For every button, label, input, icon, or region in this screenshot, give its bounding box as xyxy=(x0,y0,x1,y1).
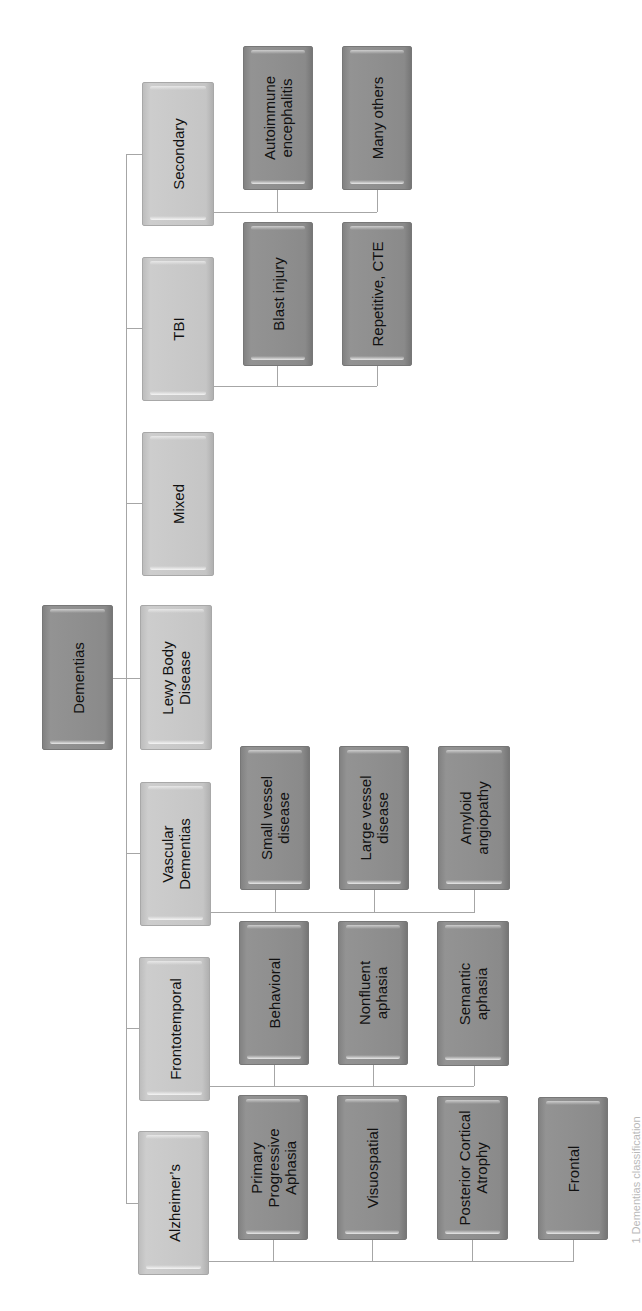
drop-tbi-1 xyxy=(377,365,378,386)
stub-lewy xyxy=(126,678,140,679)
category-label: Lewy Body Disease xyxy=(159,641,193,714)
subtype-primary-progressive-aphasia: Primary Progressive Aphasia xyxy=(238,1095,308,1240)
subtype-frontal: Frontal xyxy=(538,1097,608,1240)
drop-secondary-0 xyxy=(277,190,278,212)
subtype-label: Posterior Cortical Atrophy xyxy=(456,1110,490,1225)
category-vascular-dementias: Vascular Dementias xyxy=(140,782,211,926)
subtype-many-others: Many others xyxy=(342,46,412,190)
drop-alz-0 xyxy=(273,1240,274,1261)
subtype-semantic-aphasia: Semantic aphasia xyxy=(437,921,509,1066)
subtype-label: Behavioral xyxy=(266,958,283,1029)
drop-ftd-2 xyxy=(474,1065,475,1086)
root-node-dementias: Dementias xyxy=(42,605,113,750)
category-tbi: TBI xyxy=(142,257,214,401)
subtype-label: Autoimmune encephalitis xyxy=(261,76,295,160)
category-label: Mixed xyxy=(170,484,187,524)
category-secondary: Secondary xyxy=(142,82,214,226)
figure-caption-text: 1 Dementias classification xyxy=(630,1116,642,1243)
subtype-label: Repetitive, CTE xyxy=(369,241,386,346)
drop-ftd-1 xyxy=(373,1065,374,1086)
subtype-label: Many others xyxy=(369,77,386,160)
drop-vascular-1 xyxy=(374,890,375,912)
bus-secondary xyxy=(214,212,377,213)
subtype-large-vessel-disease: Large vessel disease xyxy=(339,746,409,890)
subtype-autoimmune-encephalitis: Autoimmune encephalitis xyxy=(243,46,313,190)
subtype-label: Semantic aphasia xyxy=(456,962,490,1025)
root-connector xyxy=(112,678,127,679)
category-alzheimers: Alzheimer’s xyxy=(138,1131,209,1275)
category-label: Vascular Dementias xyxy=(159,818,193,890)
category-frontotemporal: Frontotemporal xyxy=(139,957,210,1101)
subtype-label: Primary Progressive Aphasia xyxy=(248,1128,299,1207)
bus-frontotemporal xyxy=(210,1086,474,1087)
stub-mixed xyxy=(126,503,142,504)
subtype-label: Visuospatial xyxy=(364,1127,381,1208)
drop-alz-2 xyxy=(472,1240,473,1261)
subtype-blast-injury: Blast injury xyxy=(243,222,313,366)
category-mixed: Mixed xyxy=(142,432,214,576)
subtype-label: Amyloid angiopathy xyxy=(457,781,491,854)
category-label: Alzheimer’s xyxy=(165,1164,182,1242)
subtype-label: Large vessel disease xyxy=(357,775,391,860)
subtype-posterior-cortical-atrophy: Posterior Cortical Atrophy xyxy=(437,1096,508,1240)
subtype-label: Frontal xyxy=(565,1145,582,1192)
stub-frontotemporal xyxy=(126,1028,139,1029)
subtype-label: Blast injury xyxy=(270,257,287,330)
category-lewy-body-disease: Lewy Body Disease xyxy=(140,605,212,750)
drop-ftd-0 xyxy=(274,1065,275,1086)
category-label: Secondary xyxy=(170,118,187,190)
subtype-repetitive-cte: Repetitive, CTE xyxy=(342,222,412,366)
figure-caption: 1 Dementias classification xyxy=(622,1050,642,1311)
subtype-amyloid-angiopathy: Amyloid angiopathy xyxy=(438,746,510,890)
category-label: Frontotemporal xyxy=(166,978,183,1080)
drop-alz-3 xyxy=(573,1240,574,1261)
stub-tbi xyxy=(126,328,142,329)
stub-secondary xyxy=(126,154,142,155)
stub-vascular xyxy=(126,853,140,854)
bus-tbi xyxy=(214,386,377,387)
drop-alz-1 xyxy=(372,1240,373,1261)
drop-secondary-1 xyxy=(377,190,378,212)
root-node-label: Dementias xyxy=(69,642,86,714)
stub-alzheimers xyxy=(126,1203,138,1204)
drop-tbi-0 xyxy=(277,365,278,386)
subtype-label: Small vessel disease xyxy=(258,776,292,860)
subtype-visuospatial: Visuospatial xyxy=(337,1095,407,1240)
subtype-behavioral: Behavioral xyxy=(239,921,309,1065)
bus-alzheimers xyxy=(209,1261,574,1262)
subtype-nonfluent-aphasia: Nonfluent aphasia xyxy=(338,921,408,1065)
category-label: TBI xyxy=(170,317,187,340)
drop-vascular-0 xyxy=(275,890,276,912)
subtype-small-vessel-disease: Small vessel disease xyxy=(240,746,310,890)
bus-vascular xyxy=(211,912,475,913)
subtype-label: Nonfluent aphasia xyxy=(356,961,390,1025)
main-vertical-connector xyxy=(126,154,127,1204)
drop-vascular-2 xyxy=(474,890,475,912)
